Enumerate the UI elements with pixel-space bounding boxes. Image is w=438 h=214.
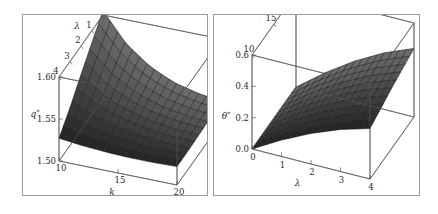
box-edge <box>370 117 414 179</box>
x-tick-label: 2 <box>309 167 314 177</box>
surface-mesh <box>252 48 414 149</box>
y-tick <box>70 62 72 65</box>
z-axis-label-star: * <box>36 108 39 115</box>
x-tick-label: 20 <box>174 187 185 195</box>
box-edge <box>296 15 414 23</box>
z-axis-label: θ* <box>222 110 230 121</box>
z-tick-label: 1.50 <box>37 156 56 166</box>
y-tick-label: 1 <box>86 20 91 30</box>
y-tick-label: 4 <box>53 66 58 76</box>
left-plot-panel: 1.501.551.60q*101520k43210λ <box>22 14 208 196</box>
x-tick-label: 3 <box>339 175 344 185</box>
y-tick-label: 15 <box>266 15 277 23</box>
figure-canvas: 1.501.551.60q*101520k43210λ 0.00.20.40.6… <box>0 0 438 214</box>
z-tick-label: 0.0 <box>235 144 249 154</box>
x-axis-label: k <box>109 187 114 195</box>
y-tick-label: 2 <box>75 35 80 45</box>
x-axis-label: λ <box>294 178 301 188</box>
surface-mesh <box>59 15 207 167</box>
z-tick-label: 0.4 <box>235 81 249 91</box>
y-tick <box>81 46 83 49</box>
y-tick-label: 10 <box>244 44 255 54</box>
y-tick <box>274 24 276 27</box>
z-tick-label: 1.55 <box>37 114 56 124</box>
y-tick <box>92 31 94 34</box>
left-surface-plot: 1.501.551.60q*101520k43210λ <box>23 15 207 195</box>
z-tick-label: 0.2 <box>235 113 249 123</box>
x-tick-label: 15 <box>115 175 126 185</box>
box-edge <box>296 15 414 23</box>
x-tick-label: 10 <box>56 163 67 173</box>
y-tick-label: 3 <box>64 51 69 61</box>
y-axis-label: λ <box>73 21 80 31</box>
z-axis-label-star: * <box>227 110 230 117</box>
right-plot-panel: 0.00.20.40.6θ*01234λ101520k <box>213 14 420 196</box>
x-tick-label: 1 <box>280 160 285 170</box>
x-tick-label: 4 <box>368 182 373 192</box>
x-tick-label: 0 <box>250 152 255 162</box>
right-surface-plot: 0.00.20.40.6θ*01234λ101520k <box>214 15 419 195</box>
